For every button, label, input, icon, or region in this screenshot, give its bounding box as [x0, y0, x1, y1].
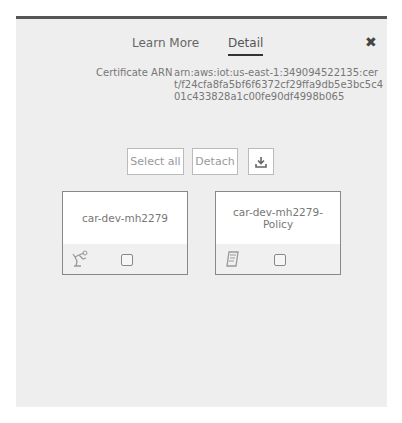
card-checkbox[interactable] [121, 254, 133, 266]
card-title: car-dev-mh2279 [63, 192, 187, 244]
tab-learn-more[interactable]: Learn More [132, 36, 199, 50]
detail-panel: Learn More Detail ✖ Certificate ARN arn:… [16, 16, 387, 407]
policy-icon [224, 250, 242, 268]
thing-icon [71, 250, 89, 268]
select-all-button[interactable]: Select all [127, 148, 184, 175]
detach-button[interactable]: Detach [192, 148, 238, 175]
certificate-arn-value: arn:aws:iot:us-east-1:349094522135:cert/… [174, 67, 384, 103]
certificate-arn-label: Certificate ARN [96, 67, 172, 78]
download-icon [255, 156, 267, 168]
attached-thing-card[interactable]: car-dev-mh2279 [62, 191, 188, 275]
close-icon[interactable]: ✖ [365, 34, 377, 50]
card-checkbox[interactable] [274, 254, 286, 266]
card-title: car-dev-mh2279-Policy [216, 192, 340, 244]
attached-policy-card[interactable]: car-dev-mh2279-Policy [215, 191, 341, 275]
tab-bar: Learn More Detail ✖ [16, 19, 387, 63]
tab-detail[interactable]: Detail [228, 36, 263, 56]
download-button[interactable] [248, 148, 274, 175]
